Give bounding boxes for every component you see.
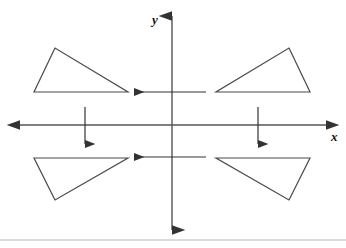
y-axis-label: y [150, 12, 158, 27]
x-axis-label: x [330, 129, 338, 144]
figure-background [0, 0, 346, 248]
coordinate-plane-figure: x y [0, 0, 346, 248]
figure-container: x y [0, 0, 346, 248]
